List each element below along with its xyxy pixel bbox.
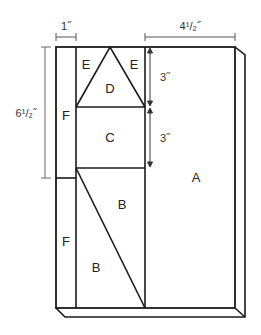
dimension-left-height	[41, 47, 51, 178]
piece-label-e-left: E	[82, 57, 91, 72]
dimension-top-section	[148, 48, 153, 106]
piece-label-e-right: E	[130, 57, 139, 72]
piece-label-f-upper: F	[62, 108, 70, 123]
dimension-label-top-section: 3˝	[160, 71, 171, 83]
dimension-label-middle-section: 3˝	[160, 132, 171, 144]
dimension-strip-width	[56, 33, 76, 41]
piece-label-f-lower: F	[62, 234, 70, 249]
piece-label-d: D	[105, 81, 114, 96]
dimension-label-strip-width: 1˝	[61, 20, 72, 32]
dimension-panel-width	[145, 33, 235, 41]
piece-label-c: C	[105, 130, 114, 145]
piece-label-b-lower: B	[92, 260, 101, 275]
piece-label-a: A	[192, 170, 201, 185]
dimension-label-left-height: 6¹/₂˝	[16, 107, 38, 119]
piece-label-b-upper: B	[118, 197, 127, 212]
quilt-block-diagram: 1˝ 4¹/₂˝ 6¹/₂˝ 3˝ 3˝ E E D C F F B B A	[0, 0, 261, 335]
dimension-middle-section	[148, 108, 153, 167]
dimension-label-panel-width: 4¹/₂˝	[180, 20, 202, 32]
piece-divisions	[56, 47, 145, 308]
